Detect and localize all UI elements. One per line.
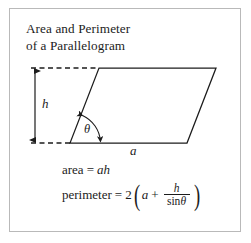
perimeter-formula: perimeter=2(a+hsinθ) bbox=[62, 182, 202, 208]
open-paren: ( bbox=[134, 184, 140, 206]
perimeter-formula-label: perimeter bbox=[62, 187, 112, 203]
fraction-denominator: sinθ bbox=[165, 195, 188, 207]
area-formula-label: area bbox=[62, 162, 84, 177]
area-formula-var-h: h bbox=[103, 162, 110, 177]
perimeter-fraction: hsinθ bbox=[164, 182, 190, 208]
parallelogram-figure-card: Area and Perimeterof a Parallelogram h bbox=[0, 0, 251, 243]
fraction-denominator-var: θ bbox=[180, 195, 186, 207]
perimeter-formula-equals: = bbox=[112, 187, 125, 203]
close-paren: ) bbox=[193, 184, 199, 206]
perimeter-formula-group: (a+hsinθ) bbox=[132, 182, 202, 208]
parallelogram-shape bbox=[70, 68, 216, 143]
height-label: h bbox=[42, 96, 49, 112]
area-formula-equals: = bbox=[84, 162, 97, 177]
base-label: a bbox=[130, 143, 137, 159]
fraction-denominator-fn: sin bbox=[167, 195, 180, 207]
area-formula: area=ah bbox=[62, 162, 110, 178]
angle-label: θ bbox=[84, 122, 90, 137]
base-label-text: a bbox=[130, 143, 137, 158]
fraction-numerator: h bbox=[170, 182, 184, 194]
height-label-text: h bbox=[42, 96, 49, 111]
angle-label-text: θ bbox=[84, 122, 90, 136]
perimeter-plus-sign: + bbox=[148, 187, 161, 203]
